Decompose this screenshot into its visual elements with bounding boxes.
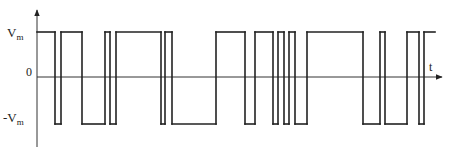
t-axis-label: t bbox=[429, 60, 433, 74]
waveform bbox=[37, 32, 435, 124]
neg-vm-label: -Vm bbox=[3, 110, 24, 127]
pulse-waveform-diagram: Vm 0 -Vm t bbox=[0, 0, 453, 154]
vm-label: Vm bbox=[7, 25, 23, 42]
zero-label: 0 bbox=[26, 65, 32, 79]
